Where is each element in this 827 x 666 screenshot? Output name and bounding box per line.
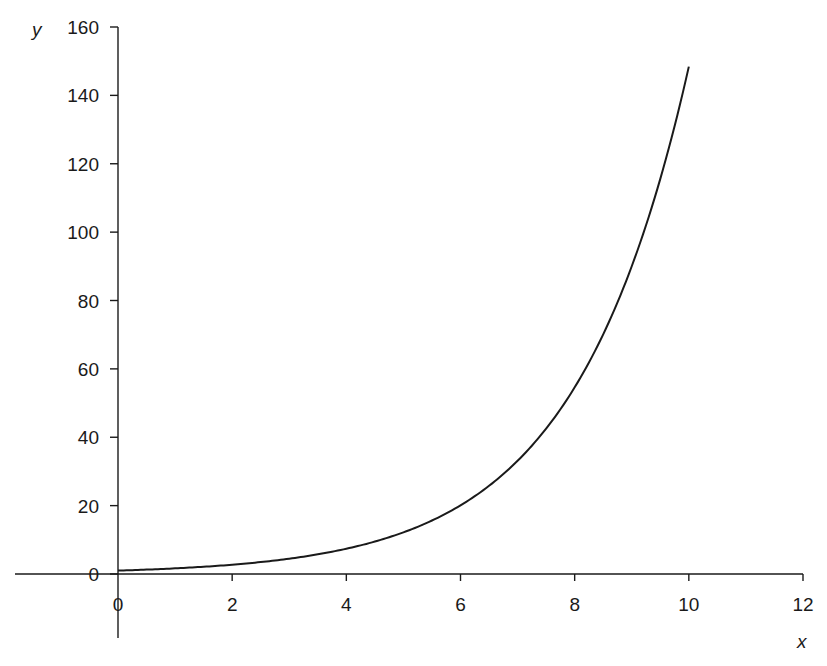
y-axis-label: y [30,19,43,40]
x-tick-label: 4 [341,594,352,615]
x-ticks: 024681012 [113,574,814,615]
x-axis-label: x [796,631,808,652]
line-chart: 024681012 020406080100120140160 y x [0,0,827,666]
x-tick-label: 8 [569,594,580,615]
x-tick-label: 6 [455,594,466,615]
x-tick-label: 12 [792,594,813,615]
y-tick-label: 40 [78,427,99,448]
axes [15,27,803,638]
y-tick-label: 80 [78,291,99,312]
y-tick-label: 160 [67,17,99,38]
y-tick-label: 120 [67,154,99,175]
exponential-curve [118,67,689,571]
x-tick-label: 2 [227,594,238,615]
y-tick-label: 140 [67,85,99,106]
y-tick-label: 100 [67,222,99,243]
y-tick-label: 60 [78,359,99,380]
y-tick-label: 0 [88,564,99,585]
y-ticks: 020406080100120140160 [67,17,118,585]
x-tick-label: 10 [678,594,699,615]
x-tick-label: 0 [113,594,124,615]
y-tick-label: 20 [78,496,99,517]
